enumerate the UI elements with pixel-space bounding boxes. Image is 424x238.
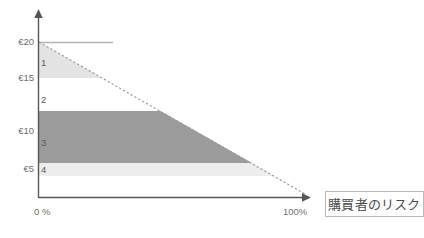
x-tick-0-label: 0 %: [34, 207, 50, 217]
y-tick-10-label: €10: [0, 126, 34, 136]
y-tick-20: €20: [0, 37, 34, 47]
band-1-label: 1: [41, 58, 46, 68]
band-3-label: 3: [41, 138, 46, 148]
x-axis-arrowhead: [302, 193, 311, 201]
risk-caption-box: 購買者のリスク: [325, 191, 424, 217]
y-axis-arrowhead: [34, 9, 42, 18]
band-2-label: 2: [41, 95, 46, 105]
y-tick-15-label: €15: [0, 73, 34, 83]
risk-caption-text: 購買者のリスク: [328, 197, 420, 212]
band-1-area: [39, 42, 310, 78]
y-tick-15: €15: [0, 73, 34, 83]
y-tick-20-label: €20: [0, 37, 34, 47]
band-4-label: 4: [41, 165, 46, 175]
y-tick-5: €5: [0, 164, 34, 174]
y-tick-10: €10: [0, 126, 34, 136]
y-tick-5-label: €5: [0, 164, 34, 174]
x-tick-100-label: 100%: [283, 207, 307, 217]
band-2-area: [39, 78, 310, 111]
